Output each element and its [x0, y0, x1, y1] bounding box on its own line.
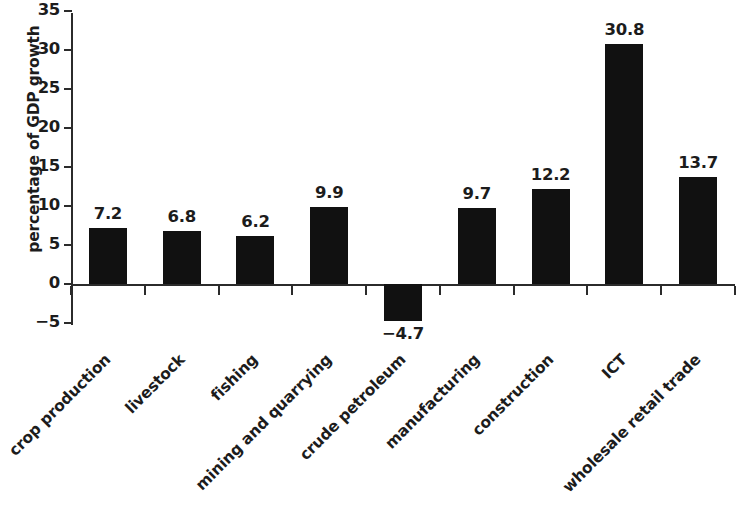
y-axis-tick-label: 25: [14, 78, 60, 97]
y-axis-tick-label: 15: [14, 156, 60, 175]
y-axis-tick: [64, 166, 72, 168]
bar-value-label: 9.9: [294, 183, 364, 202]
x-axis-tick: [734, 286, 736, 295]
bar-value-label: 12.2: [516, 165, 586, 184]
bar: [458, 208, 496, 284]
bar: [532, 189, 570, 284]
y-axis-tick: [64, 205, 72, 207]
bar: [310, 207, 348, 284]
x-axis-category-label: wholesale retail trade: [480, 351, 705, 505]
y-axis-tick-label: −5: [14, 312, 60, 331]
x-axis-category-label: ICT: [406, 351, 631, 505]
bar: [605, 44, 643, 284]
x-axis-category-label: fishing: [37, 351, 262, 505]
y-axis-tick-label: 30: [14, 39, 60, 58]
y-axis-tick: [64, 10, 72, 12]
bar-value-label: 6.2: [220, 212, 290, 231]
bar: [236, 236, 274, 284]
y-axis-tick: [64, 244, 72, 246]
y-axis-line: [71, 13, 73, 325]
y-axis-tick: [64, 127, 72, 129]
x-axis-tick: [660, 286, 662, 295]
bar: [89, 228, 127, 284]
bar: [163, 231, 201, 284]
x-axis-tick: [70, 286, 72, 295]
bar-value-label: 13.7: [663, 153, 733, 172]
bar-value-label: −4.7: [368, 324, 438, 343]
y-axis-tick: [64, 88, 72, 90]
x-axis-tick: [365, 286, 367, 295]
bar-value-label: 6.8: [147, 207, 217, 226]
y-axis-tick-label: 5: [14, 234, 60, 253]
x-axis-tick: [586, 286, 588, 295]
x-axis-category-label: construction: [332, 351, 557, 505]
y-axis-tick: [64, 322, 72, 324]
y-axis-tick: [64, 49, 72, 51]
x-axis-category-label: manufacturing: [258, 351, 483, 505]
bar-value-label: 7.2: [73, 204, 143, 223]
bar-chart-figure: percentage of GDP growth 35302520151050−…: [0, 0, 740, 505]
y-axis-tick-label: 0: [14, 273, 60, 292]
x-axis-tick: [513, 286, 515, 295]
x-axis-tick: [144, 286, 146, 295]
y-axis-tick: [64, 283, 72, 285]
bar: [679, 177, 717, 284]
x-axis-category-label: mining and quarrying: [111, 351, 336, 505]
bar-value-label: 9.7: [442, 184, 512, 203]
x-axis-tick: [439, 286, 441, 295]
x-axis-tick: [291, 286, 293, 295]
bar-value-label: 30.8: [589, 20, 659, 39]
y-axis-tick-label: 35: [14, 0, 60, 19]
x-axis-category-label: crude petroleum: [185, 351, 410, 505]
x-axis-tick: [218, 286, 220, 295]
bar: [384, 284, 422, 321]
y-axis-tick-label: 10: [14, 195, 60, 214]
y-axis-tick-label: 20: [14, 117, 60, 136]
